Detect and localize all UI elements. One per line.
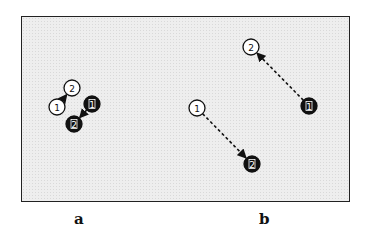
svg-text:2: 2 [248,43,254,53]
svg-text:2: 2 [69,84,75,94]
svg-text:2: 2 [71,120,77,130]
arrow-a-black-1-to-a-black-2 [80,110,87,117]
svg-text:1: 1 [194,104,200,114]
node-b-white-2: 2 [243,39,259,55]
node-b-black-1: 1 [301,98,317,114]
panel-label-a: a [74,210,84,228]
node-a-white-1: 1 [49,99,65,115]
node-b-black-2: 2 [244,156,260,172]
svg-text:2: 2 [249,160,255,170]
diagram-canvas: 12121221 [0,0,367,239]
node-a-white-2: 2 [64,80,80,96]
node-a-black-1: 1 [84,96,100,112]
nodes-layer: 12121221 [49,39,317,172]
node-a-black-2: 2 [66,116,82,132]
arrow-b-white-1-to-b-black-2 [203,114,246,158]
arrow-b-black-1-to-b-white-2 [257,53,303,100]
svg-text:1: 1 [89,100,95,110]
svg-text:1: 1 [54,103,60,113]
panel-label-b: b [259,210,270,228]
node-b-white-1: 1 [189,100,205,116]
svg-text:1: 1 [306,102,312,112]
arrow-a-white-1-to-a-white-2 [62,95,66,101]
